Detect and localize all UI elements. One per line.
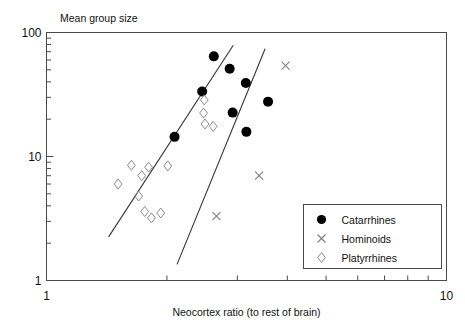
data-point-platyrrhines [148,213,156,223]
legend-label-catarrhines: Catarrhines [342,214,396,226]
upper-regression-line [109,45,234,237]
legend-label-platyrrhines: Platyrrhines [342,252,397,264]
lower-regression-line [177,49,265,265]
data-point-platyrrhines [200,108,208,118]
y-tick-label: 1 [35,274,42,288]
data-point-catarrhines [197,87,207,97]
data-point-platyrrhines [135,191,143,201]
data-point-catarrhines [263,97,273,107]
data-point-platyrrhines [138,171,146,181]
data-point-catarrhines [170,132,180,142]
data-point-hominoids [255,172,263,180]
regression-lines [109,45,265,264]
data-point-catarrhines [241,127,251,137]
data-point-catarrhines [225,64,235,74]
chart-page: Mean group sizeNeocortex ratio (to rest … [0,0,465,328]
x-tick-label: 1 [43,289,50,303]
y-axis-title: Mean group size [60,12,138,24]
data-point-catarrhines [228,108,238,118]
legend-marker-catarrhines [317,215,326,224]
x-axis-title: Neocortex ratio (to rest of brain) [172,306,320,318]
x-tick-label: 10 [440,289,454,303]
data-point-platyrrhines [201,119,209,129]
data-point-platyrrhines [127,160,135,170]
legend: CatarrhinesHominoidsPlatyrrhines [304,205,442,269]
series-catarrhines [170,51,273,141]
data-point-platyrrhines [141,207,149,217]
data-point-platyrrhines [114,179,122,189]
y-tick-label: 100 [21,26,41,40]
y-tick-label: 10 [28,150,42,164]
legend-label-hominoids: Hominoids [342,233,392,245]
data-point-catarrhines [241,78,251,88]
series-hominoids [212,62,289,221]
data-point-platyrrhines [209,121,217,131]
data-point-platyrrhines [157,208,165,218]
data-point-hominoids [282,62,290,70]
data-points [114,51,289,222]
data-point-catarrhines [209,51,219,61]
data-point-hominoids [212,212,220,220]
scatter-chart: Mean group sizeNeocortex ratio (to rest … [0,0,465,328]
data-point-platyrrhines [164,161,172,171]
